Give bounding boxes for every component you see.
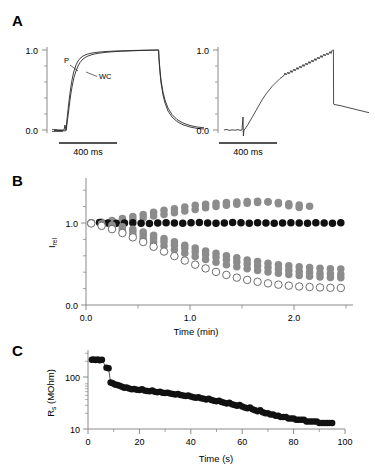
panel-b-y-axis-title-sub: rel: [51, 238, 58, 246]
data-point: [223, 271, 231, 279]
figure-root: A 1.0 0.0: [0, 0, 375, 474]
panel-a-trace-label-p: P: [64, 56, 69, 65]
data-point: [212, 203, 220, 211]
data-point: [254, 199, 262, 207]
panel-a-right-ytick-0: 0.0: [196, 126, 209, 136]
data-point: [223, 261, 231, 269]
data-point: [181, 249, 189, 257]
data-point: [171, 252, 179, 260]
data-point: [99, 357, 106, 364]
data-point: [243, 276, 251, 284]
panel-a-canvas: 1.0 0.0 P WC 400 ms: [0, 0, 375, 168]
panel-c-xtick-20: 20: [134, 437, 144, 447]
data-point: [98, 222, 106, 230]
data-point: [212, 220, 220, 228]
data-point: [254, 267, 262, 275]
data-point: [204, 219, 212, 227]
panel-c-y-axis-title: Rs (MOhm): [45, 369, 57, 417]
panel-b-xtick-1: 1.0: [184, 313, 197, 323]
panel-c-xtick-60: 60: [237, 437, 247, 447]
panel-a: A 1.0 0.0: [0, 0, 375, 168]
panel-b-canvas: 1.0 0.0 0.0 1.0 2.0 Time (min) Irel: [0, 168, 375, 343]
data-point: [139, 238, 147, 246]
data-point: [233, 274, 241, 282]
data-point: [285, 271, 293, 279]
data-point: [329, 219, 337, 227]
data-point: [285, 282, 293, 290]
data-point: [146, 220, 154, 228]
data-point: [306, 283, 314, 291]
data-point: [162, 219, 170, 227]
data-point: [202, 265, 210, 273]
data-point: [191, 253, 199, 261]
data-point: [285, 200, 293, 208]
data-point: [160, 248, 168, 256]
panel-a-right-plot: 1.0 0.0 400 ms: [196, 46, 369, 158]
data-point: [327, 284, 335, 292]
data-point: [171, 209, 179, 217]
data-point: [306, 202, 314, 210]
data-point: [229, 219, 237, 227]
data-point: [275, 281, 283, 289]
panel-a-left-ytick-1: 1.0: [25, 46, 38, 56]
data-point: [312, 219, 320, 227]
data-point: [212, 268, 220, 276]
data-point: [304, 220, 312, 228]
data-point: [233, 201, 241, 209]
data-point: [295, 283, 303, 291]
data-point: [237, 219, 245, 227]
data-point: [129, 234, 137, 242]
panel-b-xtick-0: 0.0: [80, 313, 93, 323]
panel-a-left-ytick-0: 0.0: [25, 126, 38, 136]
data-point: [306, 273, 314, 281]
data-point: [320, 219, 328, 227]
data-point: [181, 257, 189, 265]
data-point: [105, 365, 112, 372]
panel-c-xtick-0: 0: [85, 437, 90, 447]
data-point: [243, 265, 251, 273]
data-point: [150, 212, 158, 220]
data-point: [295, 201, 303, 209]
svg-text:Rs (MOhm): Rs (MOhm): [45, 369, 57, 417]
trace-wc: [54, 50, 204, 131]
data-point: [108, 225, 116, 233]
panel-a-trace-label-wc: WC: [99, 72, 112, 81]
data-point: [337, 274, 345, 282]
panel-a-left-plot: 1.0 0.0 P WC 400 ms: [25, 46, 204, 158]
panel-a-right-scalebar-label: 400 ms: [233, 147, 263, 157]
panel-c-data-markers: [89, 356, 336, 426]
data-point: [337, 219, 345, 227]
data-point: [181, 207, 189, 215]
data-point: [246, 219, 254, 227]
data-point: [327, 274, 335, 282]
panel-c-y-axis-title-unit: (MOhm): [45, 369, 56, 406]
data-point: [187, 219, 195, 227]
data-point: [337, 284, 345, 292]
data-point: [254, 278, 262, 286]
panel-c-xtick-40: 40: [186, 437, 196, 447]
panel-b-xtick-2: 2.0: [288, 313, 301, 323]
panel-c-ytick-10: 10: [70, 425, 80, 435]
leader-line-wc: [86, 72, 97, 77]
panel-c: C 100 10: [0, 338, 375, 474]
data-point: [270, 220, 278, 228]
trace-p: [54, 50, 204, 130]
data-point: [202, 256, 210, 264]
data-point: [316, 284, 324, 292]
data-point: [129, 219, 137, 227]
data-point: [316, 273, 324, 281]
panel-c-ytick-100: 100: [65, 373, 80, 383]
panel-b: B 1.0 0.0 0.0 1.0 2.0: [0, 168, 375, 343]
panel-a-left-scalebar-label: 400 ms: [73, 147, 103, 157]
panel-a-right-ytick-1: 1.0: [196, 46, 209, 56]
data-point: [275, 270, 283, 278]
panel-c-xtick-80: 80: [289, 437, 299, 447]
data-point: [264, 198, 272, 206]
data-point: [196, 219, 204, 227]
data-point: [243, 200, 251, 208]
panel-b-y-axis-title: Irel: [46, 238, 58, 248]
panel-c-canvas: 100 10 0 20 40 60 80 100 Time (s): [0, 338, 375, 474]
data-point: [264, 268, 272, 276]
data-point: [119, 229, 127, 237]
data-point: [254, 219, 262, 227]
